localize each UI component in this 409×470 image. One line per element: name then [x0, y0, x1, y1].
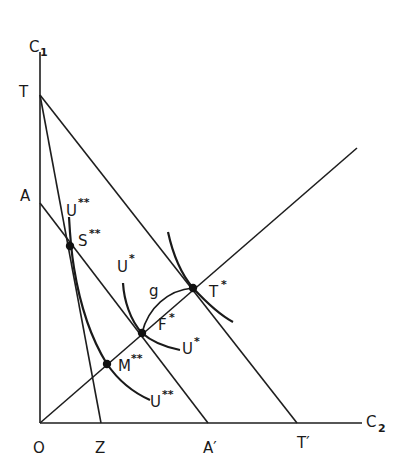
point-f-star [138, 329, 146, 337]
label-u-star-top-sup: * [129, 252, 135, 265]
line-a-aprime [40, 203, 208, 423]
line-t-tprime [40, 95, 297, 423]
label-t: T [18, 83, 29, 101]
label-t-prime: T′ [296, 434, 310, 452]
label-u-double-star-top: U [66, 202, 77, 220]
indifference-diagram: C 1 C 2 T A O Z A′ T′ S ** F * T * M ** … [0, 0, 409, 470]
label-u-star-bottom: U [182, 340, 193, 358]
label-u-star-top: U [117, 258, 128, 276]
label-a: A [20, 187, 31, 205]
origin-ray [40, 148, 357, 423]
label-m: M [118, 357, 131, 375]
label-f: F [158, 316, 167, 334]
label-a-prime: A′ [203, 439, 217, 457]
c1-axis-sub: 1 [40, 46, 48, 59]
label-u-double-star-top-sup: ** [78, 196, 90, 209]
label-t-star-sup: * [221, 278, 227, 291]
label-u-double-star-bottom-sup: ** [162, 388, 174, 401]
c1-axis-label: C [29, 38, 39, 56]
label-t-star: T [208, 283, 219, 301]
label-z: Z [95, 439, 105, 457]
c2-axis-label: C [366, 413, 376, 431]
point-s-double-star [66, 242, 74, 250]
indifference-curve-t-star [168, 232, 233, 322]
label-s-sup: ** [89, 227, 101, 240]
point-t-star [189, 284, 197, 292]
point-m-double-star [103, 360, 111, 368]
label-u-double-star-bottom: U [150, 393, 161, 411]
label-o: O [33, 439, 45, 457]
label-s: S [78, 232, 88, 250]
label-g: g [149, 282, 159, 300]
line-t-z [40, 95, 101, 423]
label-m-sup: ** [131, 352, 143, 365]
label-f-sup: * [169, 311, 175, 324]
label-u-star-bottom-sup: * [194, 335, 200, 348]
c2-axis-sub: 2 [378, 422, 386, 435]
